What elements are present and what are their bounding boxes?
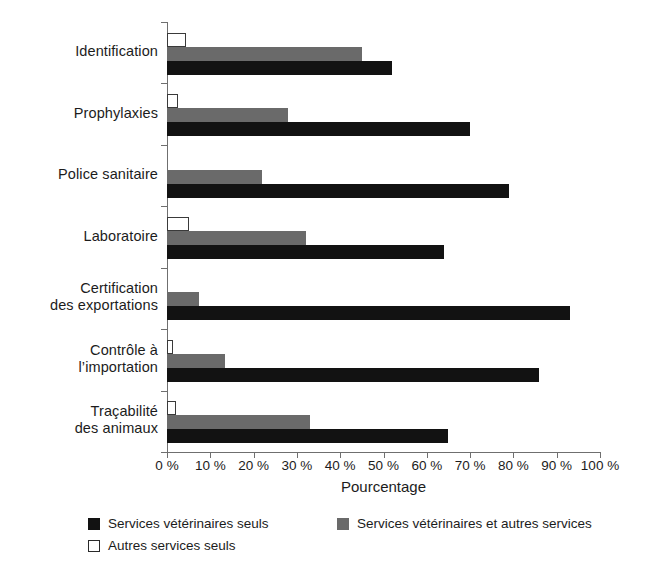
x-axis-tick-label: 100 % <box>581 458 619 474</box>
bar <box>167 292 199 306</box>
x-axis-tick-label: 0 % <box>155 458 178 474</box>
bar <box>167 108 288 122</box>
legend-item[interactable]: Services vétérinaires seuls <box>88 516 269 532</box>
bar <box>167 368 539 382</box>
legend-item[interactable]: Autres services seuls <box>88 538 236 554</box>
bar-group <box>167 391 600 452</box>
x-axis-tick-label: 90 % <box>541 458 572 474</box>
x-axis-tick-label: 70 % <box>455 458 486 474</box>
bar-group <box>167 22 600 83</box>
x-axis-tick-label: 40 % <box>325 458 356 474</box>
bar <box>167 231 306 245</box>
category-label: Certification des exportations <box>0 280 158 314</box>
bar <box>167 47 362 61</box>
category-label: Traçabilité des animaux <box>0 403 158 437</box>
legend-item[interactable]: Services vétérinaires et autres services <box>337 516 592 532</box>
bar <box>167 245 444 259</box>
legend-label: Services vétérinaires et autres services <box>357 516 592 532</box>
legend-swatch-icon <box>337 518 349 530</box>
bar <box>167 415 310 429</box>
bar <box>167 306 570 320</box>
legend-label: Autres services seuls <box>108 538 236 554</box>
bar-group <box>167 206 600 267</box>
plot-area: IdentificationProphylaxiesPolice sanitai… <box>0 0 656 470</box>
category-label: Identification <box>0 43 158 60</box>
bar-group <box>167 329 600 390</box>
x-axis-title: Pourcentage <box>167 478 600 495</box>
category-label: Contrôle à l’importation <box>0 342 158 376</box>
bar <box>167 354 225 368</box>
category-axis-labels: IdentificationProphylaxiesPolice sanitai… <box>0 22 158 450</box>
bar-group <box>167 83 600 144</box>
bar <box>167 33 186 47</box>
x-axis-tick-label: 10 % <box>195 458 226 474</box>
bar-chart: IdentificationProphylaxiesPolice sanitai… <box>0 0 656 582</box>
x-axis-tick-label: 60 % <box>411 458 442 474</box>
bar <box>167 401 176 415</box>
bar <box>167 94 178 108</box>
x-axis-tick-label: 20 % <box>238 458 269 474</box>
legend-label: Services vétérinaires seuls <box>108 516 269 532</box>
legend-swatch-icon <box>88 518 100 530</box>
x-axis-tick-label: 30 % <box>282 458 313 474</box>
x-axis-tick-label: 80 % <box>498 458 529 474</box>
category-label: Laboratoire <box>0 228 158 245</box>
bar <box>167 122 470 136</box>
x-axis-tick-label: 50 % <box>368 458 399 474</box>
category-label: Police sanitaire <box>0 166 158 183</box>
bar <box>167 184 509 198</box>
bar <box>167 429 448 443</box>
bar-group <box>167 268 600 329</box>
bar <box>167 217 189 231</box>
legend-swatch-icon <box>88 540 100 552</box>
category-label: Prophylaxies <box>0 105 158 122</box>
bar <box>167 170 262 184</box>
bars-container <box>167 22 600 452</box>
bar <box>167 340 173 354</box>
bar-group <box>167 145 600 206</box>
chart-legend: Services vétérinaires seulsServices vété… <box>0 510 656 570</box>
bar <box>167 61 392 75</box>
